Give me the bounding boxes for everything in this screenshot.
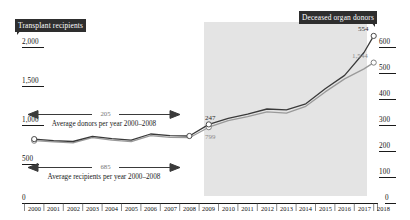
x-axis-label-2007: 2007: [161, 205, 180, 212]
marker-donors-2008: [187, 133, 192, 138]
x-axis-label-2018: 2018: [374, 205, 393, 212]
point-label-donors-2018: 554: [358, 25, 369, 33]
point-label-donors-2009: 247: [205, 114, 216, 122]
x-axis-label-2006: 2006: [141, 205, 160, 212]
marker-donors-2009: [206, 122, 211, 127]
x-axis-label-2012: 2012: [258, 205, 277, 212]
plot-area: [0, 0, 410, 220]
donors-average-value: 205: [92, 110, 119, 117]
x-axis-label-2000: 2000: [25, 205, 44, 212]
donors-average-caption: Average donors per year 2000–2008: [24, 120, 184, 128]
series-line-transplant-recipients: [34, 63, 374, 143]
legend-callout-tail-recipients: [17, 30, 21, 35]
legend-callout-deceased-organ-donors: Deceased organ donors: [299, 11, 377, 24]
x-axis-label-2015: 2015: [316, 205, 335, 212]
x-axis-label-2013: 2013: [277, 205, 296, 212]
x-axis-label-2010: 2010: [219, 205, 238, 212]
x-axis-label-2009: 2009: [199, 205, 218, 212]
recipients-average-caption: Average recipients per year 2000–2008: [24, 173, 184, 181]
point-label-recipients-2018: 1,544: [352, 52, 368, 60]
x-axis-label-2001: 2001: [44, 205, 63, 212]
legend-callout-tail-donors: [371, 22, 375, 27]
x-axis-label-2008: 2008: [180, 205, 199, 212]
x-axis-label-2004: 2004: [102, 205, 121, 212]
marker-recipients-2018: [371, 60, 376, 65]
organ-donation-line-chart: 2,000 1,500 1,000 500 0 600 500 400 300 …: [0, 0, 410, 220]
recipients-average-value: 685: [92, 163, 119, 170]
x-axis-label-2014: 2014: [296, 205, 315, 212]
legend-callout-transplant-recipients: Transplant recipients: [15, 19, 86, 32]
x-axis-label-2017: 2017: [355, 205, 374, 212]
x-axis-label-2016: 2016: [335, 205, 354, 212]
x-axis-label-2005: 2005: [122, 205, 141, 212]
x-axis-label-2003: 2003: [83, 205, 102, 212]
point-label-recipients-2009: 799: [205, 133, 216, 141]
x-axis-label-2011: 2011: [238, 205, 257, 212]
marker-donors-2000: [32, 137, 37, 142]
marker-donors-2018: [371, 33, 376, 38]
x-axis-label-2002: 2002: [64, 205, 83, 212]
